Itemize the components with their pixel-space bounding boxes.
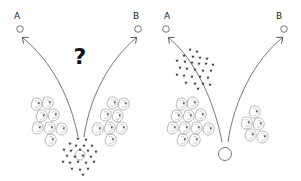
- diagram-canvas: A B ? A: [0, 0, 301, 181]
- right-panel: A B: [163, 11, 288, 161]
- arrow-to-b: [228, 38, 282, 142]
- target-a-label: A: [164, 11, 171, 21]
- molecule-group-right: [92, 97, 129, 146]
- triangle-cluster: [61, 138, 97, 177]
- target-a-label: A: [14, 11, 21, 21]
- triangle-cluster-moved: [175, 49, 214, 91]
- target-a-circle: [17, 26, 24, 33]
- molecule-group-left: [31, 97, 67, 146]
- question-mark: ?: [74, 44, 87, 69]
- target-b-label: B: [133, 11, 139, 21]
- molecule-group-left: [167, 97, 214, 146]
- target-a-circle: [163, 26, 170, 33]
- target-b-circle: [135, 26, 142, 33]
- target-b-circle: [281, 26, 288, 33]
- left-panel: A B ?: [14, 11, 141, 177]
- molecule-group-right: [241, 106, 268, 143]
- empty-origin-circle: [219, 148, 232, 161]
- target-b-label: B: [276, 11, 282, 21]
